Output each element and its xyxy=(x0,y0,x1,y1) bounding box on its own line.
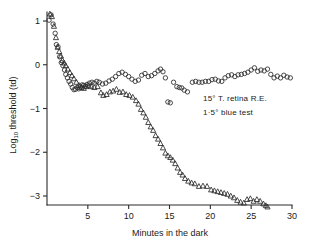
y-tick-label: −1 xyxy=(30,104,40,114)
data-point-circle xyxy=(53,31,57,35)
dark-adaptation-figure: 10−1−2−351015202530 Minutes in the dark … xyxy=(0,0,309,246)
svg-text:Log10 threshold (td): Log10 threshold (td) xyxy=(8,76,19,153)
x-tick-label: 30 xyxy=(287,211,297,221)
data-point-circle xyxy=(161,70,165,74)
data-point-triangle xyxy=(182,176,187,181)
data-point-triangle xyxy=(141,110,146,115)
x-axis-title: Minutes in the dark xyxy=(132,228,209,238)
x-tick-label: 10 xyxy=(124,211,134,221)
plot-annotations: 15° T. retina R.E. 1·5° blue test xyxy=(203,94,267,117)
scatter-plot: 10−1−2−351015202530 Minutes in the dark … xyxy=(0,0,309,246)
data-point-circle xyxy=(163,76,167,80)
y-tick-label: 0 xyxy=(35,60,40,70)
x-tick-label: 25 xyxy=(246,211,256,221)
y-axis-title-rest: threshold (td) xyxy=(8,76,18,132)
axes xyxy=(47,12,292,205)
series-cone-branch-circles xyxy=(47,13,293,105)
data-point-circle xyxy=(171,80,175,84)
data-point-triangle xyxy=(151,128,156,133)
y-tick-label: −3 xyxy=(30,191,40,201)
x-tick-label: 20 xyxy=(205,211,215,221)
y-axis-title-main: Log xyxy=(8,139,18,154)
annotation-line-1: 15° T. retina R.E. xyxy=(203,94,267,103)
axis-ticks xyxy=(43,21,292,209)
axis-tick-labels: 10−1−2−351015202530 xyxy=(30,16,297,221)
data-point-triangle xyxy=(155,136,160,141)
data-point-triangle xyxy=(204,184,209,189)
data-point-triangle xyxy=(248,196,253,201)
data-point-triangle xyxy=(136,101,141,106)
x-tick-label: 5 xyxy=(85,211,90,221)
data-point-triangle xyxy=(173,161,178,166)
data-markers xyxy=(47,11,293,209)
data-point-triangle xyxy=(114,86,119,91)
data-point-triangle xyxy=(146,120,151,125)
y-tick-label: 1 xyxy=(35,16,40,26)
y-axis-title: Log10 threshold (td) xyxy=(8,76,19,153)
x-tick-label: 15 xyxy=(164,211,174,221)
y-tick-label: −2 xyxy=(30,147,40,157)
annotation-line-2: 1·5° blue test xyxy=(203,108,254,117)
